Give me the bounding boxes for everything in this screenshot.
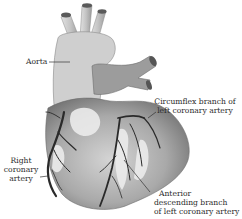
label-right-coronary-line-1: Right bbox=[2, 156, 40, 165]
label-anterior-line-2: descending branch bbox=[154, 198, 239, 207]
label-circumflex-branch: Circumflex branch of left coronary arter… bbox=[148, 97, 242, 115]
label-anterior-line-3: of left coronary artery bbox=[154, 207, 239, 216]
label-aorta: Aorta bbox=[26, 57, 47, 66]
label-anterior-line-1: Anterior bbox=[159, 189, 239, 198]
label-circumflex-line-1: Circumflex branch of bbox=[148, 97, 242, 106]
label-circumflex-line-2: left coronary artery bbox=[148, 106, 242, 115]
label-right-coronary-line-3: artery bbox=[2, 174, 40, 183]
label-right-coronary-line-2: coronary bbox=[2, 165, 40, 174]
label-anterior-descending-branch: Anterior descending branch of left coron… bbox=[159, 189, 239, 216]
label-right-coronary-artery: Right coronary artery bbox=[2, 156, 40, 183]
